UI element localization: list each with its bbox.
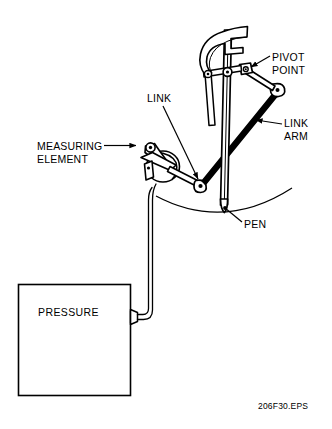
fitting-body xyxy=(131,310,138,325)
pressure-source-box xyxy=(19,285,131,396)
element-stem-pin xyxy=(147,166,150,169)
pen-arm-mount-boss xyxy=(223,68,232,77)
link-arm-elbow-pin xyxy=(276,88,280,92)
capillary-tube xyxy=(138,184,157,320)
label-pen: PEN xyxy=(244,218,266,231)
label-pressure: PRESSURE xyxy=(38,306,99,319)
mount-boss-pin xyxy=(226,70,229,73)
element-top-pin xyxy=(149,146,152,149)
leader-link-arm xyxy=(256,120,282,124)
pressure-box-outline xyxy=(19,285,131,396)
support-leg-bar xyxy=(205,73,215,126)
pen-arm xyxy=(221,30,232,213)
tube-line-inner xyxy=(138,184,157,320)
label-pivot-point: PIVOT POINT xyxy=(272,51,305,76)
leader-lines xyxy=(104,56,282,222)
leader-pen-dot xyxy=(223,206,227,210)
measuring-element xyxy=(141,143,180,182)
pressure-connector-fitting xyxy=(131,310,138,325)
tube-line-outer xyxy=(138,188,153,315)
label-measuring-element: MEASURING ELEMENT xyxy=(37,140,102,165)
label-link: LINK xyxy=(147,92,171,105)
pen-tip xyxy=(221,199,228,213)
hook-support-leg xyxy=(204,70,215,125)
support-leg-pin xyxy=(207,73,210,76)
label-link-arm: LINK ARM xyxy=(284,117,308,142)
link-joint-lower-pin xyxy=(198,184,202,188)
figure-id-text: 206F30.EPS xyxy=(258,400,308,413)
pivot-point-pin xyxy=(245,68,247,70)
element-stem-clamp xyxy=(145,161,154,180)
leader-pivot-point xyxy=(251,56,270,67)
link-arm xyxy=(202,68,285,185)
figure-page: MEASURING ELEMENT LINK PIVOT POINT LINK … xyxy=(0,0,332,429)
